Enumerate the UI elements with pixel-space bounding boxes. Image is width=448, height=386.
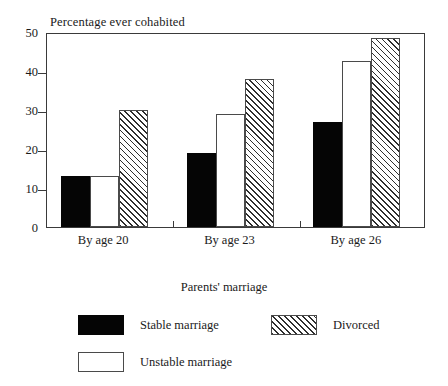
bar <box>313 122 342 227</box>
bar <box>187 153 216 227</box>
chart-title: Percentage ever cohabited <box>50 15 185 30</box>
bar <box>342 61 371 227</box>
legend-swatch <box>78 315 124 335</box>
legend-title: Parents' marriage <box>181 280 268 294</box>
chart-figure: Percentage ever cohabited 01020304050 By… <box>0 0 448 386</box>
x-axis-category-label: By age 26 <box>330 233 381 247</box>
y-axis-tick-label: 30 <box>8 105 38 118</box>
y-axis-tick <box>38 73 47 74</box>
legend-swatch <box>271 315 317 335</box>
bar <box>371 38 400 227</box>
x-axis-category-label: By age 20 <box>78 233 129 247</box>
legend-label: Unstable marriage <box>140 355 232 369</box>
legend-item: Divorced <box>271 315 380 335</box>
legend-item: Unstable marriage <box>78 352 232 372</box>
y-axis-tick-label: 10 <box>8 183 38 196</box>
y-axis-tick <box>38 112 47 113</box>
legend-swatch <box>78 352 124 372</box>
x-axis-group-separator-tick <box>173 221 174 227</box>
x-axis-category-label: By age 23 <box>204 233 255 247</box>
legend-label: Divorced <box>333 318 380 332</box>
bar <box>245 79 274 227</box>
y-axis-tick <box>38 190 47 191</box>
bar <box>216 114 245 227</box>
plot-area <box>46 33 425 228</box>
y-axis-tick-label: 40 <box>8 66 38 79</box>
x-axis-group-separator-tick <box>300 221 301 227</box>
y-axis-tick <box>38 151 47 152</box>
bar <box>90 176 119 227</box>
legend-item: Stable marriage <box>78 315 219 335</box>
bar <box>61 176 90 227</box>
y-axis-tick-label: 0 <box>8 222 38 235</box>
y-axis-tick-label: 50 <box>8 27 38 40</box>
bar <box>119 110 148 227</box>
legend-label: Stable marriage <box>140 318 219 332</box>
y-axis-tick-label: 20 <box>8 144 38 157</box>
plot-inner <box>47 34 424 227</box>
